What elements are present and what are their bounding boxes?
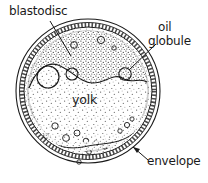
label-yolk: yolk [72, 92, 98, 107]
diagram-canvas: blastodisc oil globule yolk envelope [0, 0, 208, 183]
egg-diagram-figure: blastodisc oil globule yolk envelope [0, 0, 208, 183]
label-envelope: envelope [147, 154, 201, 168]
label-oil-line1: oil [158, 20, 171, 34]
label-blastodisc: blastodisc [9, 4, 67, 18]
label-oil-line2: globule [148, 34, 191, 48]
